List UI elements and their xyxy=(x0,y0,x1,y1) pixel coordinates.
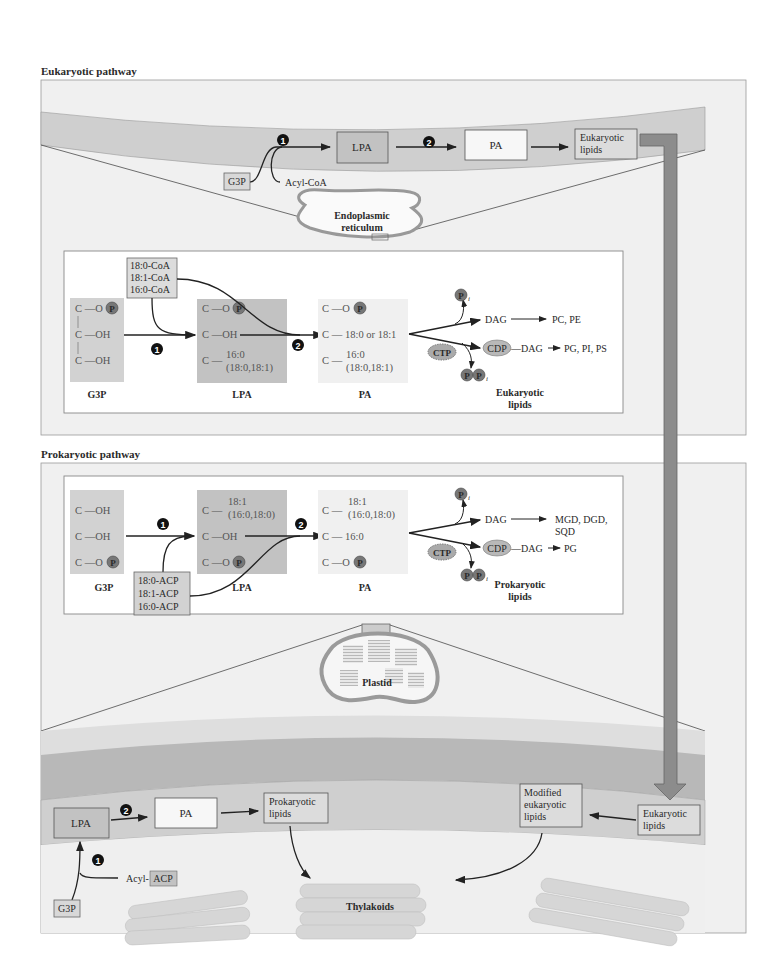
svg-text:C —O: C —O xyxy=(322,557,350,568)
svg-text:lipids: lipids xyxy=(269,808,291,819)
svg-text:PA: PA xyxy=(359,582,372,593)
svg-text:i: i xyxy=(468,295,470,303)
svg-text:lipids: lipids xyxy=(508,591,531,602)
svg-text:Plastid: Plastid xyxy=(362,677,392,688)
svg-text:eukaryotic: eukaryotic xyxy=(524,799,567,810)
svg-text:lipids: lipids xyxy=(508,399,531,410)
svg-text:2: 2 xyxy=(298,520,303,530)
svg-text:Prokaryotic: Prokaryotic xyxy=(269,796,316,807)
svg-text:18:1: 18:1 xyxy=(348,496,367,507)
svg-text:P: P xyxy=(357,304,363,314)
svg-text:(18:0,18:1): (18:0,18:1) xyxy=(346,362,393,374)
svg-text:DAG: DAG xyxy=(485,514,507,525)
svg-text:16:0: 16:0 xyxy=(346,349,365,360)
svg-text:PC, PE: PC, PE xyxy=(552,314,581,325)
svg-text:—DAG: —DAG xyxy=(510,543,543,554)
svg-text:P: P xyxy=(458,291,464,301)
svg-text:C —: C — xyxy=(202,505,223,516)
svg-text:PA: PA xyxy=(359,389,372,400)
svg-text:i: i xyxy=(486,575,488,583)
svg-text:1: 1 xyxy=(154,345,159,355)
svg-text:P: P xyxy=(458,490,464,500)
svg-text:LPA: LPA xyxy=(232,389,252,400)
svg-text:P: P xyxy=(464,571,470,581)
svg-text:C —O: C —O xyxy=(322,303,350,314)
svg-text:LPA: LPA xyxy=(352,141,372,153)
svg-text:—DAG: —DAG xyxy=(510,343,543,354)
svg-text:Acyl-CoA: Acyl-CoA xyxy=(285,177,327,188)
svg-text:reticulum: reticulum xyxy=(341,222,383,233)
svg-text:G3P: G3P xyxy=(228,176,246,187)
svg-text:C —: C — xyxy=(322,505,343,516)
svg-text:C —O: C —O xyxy=(75,557,103,568)
svg-text:C —: C — xyxy=(322,355,343,366)
svg-text:Prokaryotic: Prokaryotic xyxy=(495,579,546,590)
svg-text:PG, PI, PS: PG, PI, PS xyxy=(564,343,607,354)
svg-text:C —OH: C —OH xyxy=(75,531,111,542)
svg-text:18:1-CoA: 18:1-CoA xyxy=(130,272,171,283)
svg-text:C —: C — xyxy=(322,329,343,340)
svg-text:lipids: lipids xyxy=(524,811,546,822)
svg-text:C —OH: C —OH xyxy=(202,329,238,340)
svg-text:CTP: CTP xyxy=(433,348,452,358)
svg-text:16:0-CoA: 16:0-CoA xyxy=(130,284,171,295)
svg-text:P: P xyxy=(464,371,470,381)
svg-text:G3P: G3P xyxy=(88,389,107,400)
svg-text:Thylakoids: Thylakoids xyxy=(346,901,394,912)
svg-text:Endoplasmic: Endoplasmic xyxy=(334,210,390,221)
svg-text:Eukaryotic: Eukaryotic xyxy=(643,808,687,819)
svg-text:lipids: lipids xyxy=(580,144,602,155)
svg-text:C —OH: C —OH xyxy=(75,505,111,516)
svg-text:PA: PA xyxy=(179,807,192,819)
svg-text:2: 2 xyxy=(426,138,431,148)
svg-text:LPA: LPA xyxy=(71,817,91,829)
prokaryotic-pathway-title: Prokaryotic pathway xyxy=(41,448,141,460)
svg-text:Modified: Modified xyxy=(524,787,561,798)
svg-text:Eukaryotic: Eukaryotic xyxy=(496,387,544,398)
svg-text:C —O: C —O xyxy=(75,303,103,314)
svg-text:(18:0,18:1): (18:0,18:1) xyxy=(226,362,273,374)
svg-text:ACP: ACP xyxy=(153,873,173,884)
svg-text:i: i xyxy=(468,494,470,502)
svg-text:P: P xyxy=(110,558,116,568)
svg-text:PA: PA xyxy=(489,139,502,151)
svg-text:2: 2 xyxy=(123,806,128,816)
svg-text:P: P xyxy=(476,371,482,381)
svg-text:G3P: G3P xyxy=(58,903,76,914)
svg-text:18:0 or 18:1: 18:0 or 18:1 xyxy=(345,329,396,340)
svg-text:2: 2 xyxy=(295,341,300,351)
eukaryotic-pathway-title: Eukaryotic pathway xyxy=(41,65,137,77)
svg-text:MGD, DGD,: MGD, DGD, xyxy=(555,514,608,525)
svg-text:1: 1 xyxy=(95,856,100,866)
svg-text:P: P xyxy=(236,558,242,568)
svg-text:C —: C — xyxy=(322,531,343,542)
svg-text:C —OH: C —OH xyxy=(75,329,111,340)
svg-text:18:1-ACP: 18:1-ACP xyxy=(138,588,179,599)
svg-text:P: P xyxy=(109,304,115,314)
svg-text:C —: C — xyxy=(202,355,223,366)
svg-text:16:0: 16:0 xyxy=(345,531,364,542)
svg-text:(16:0,18:0): (16:0,18:0) xyxy=(348,509,395,521)
lipid-pathway-diagram: Eukaryotic pathway 1 G3P Acyl-CoA LPA 2 … xyxy=(0,0,757,966)
svg-text:C —O: C —O xyxy=(202,557,230,568)
svg-text:CDP: CDP xyxy=(487,543,507,554)
svg-text:Acyl-: Acyl- xyxy=(126,873,149,884)
svg-text:(16:0,18:0): (16:0,18:0) xyxy=(228,509,275,521)
svg-text:CTP: CTP xyxy=(433,548,452,558)
svg-text:i: i xyxy=(486,375,488,383)
svg-text:CDP: CDP xyxy=(487,343,507,354)
svg-text:1: 1 xyxy=(160,520,165,530)
svg-text:lipids: lipids xyxy=(643,820,665,831)
svg-text:16:0-ACP: 16:0-ACP xyxy=(138,601,179,612)
svg-text:G3P: G3P xyxy=(95,582,114,593)
svg-text:PG: PG xyxy=(564,543,577,554)
svg-text:C —O: C —O xyxy=(202,303,230,314)
svg-text:LPA: LPA xyxy=(232,582,252,593)
svg-text:P: P xyxy=(357,558,363,568)
svg-text:C —OH: C —OH xyxy=(75,355,111,366)
svg-text:DAG: DAG xyxy=(485,314,507,325)
svg-text:16:0: 16:0 xyxy=(226,349,245,360)
svg-text:18:0-CoA: 18:0-CoA xyxy=(130,260,171,271)
svg-text:18:1: 18:1 xyxy=(228,496,247,507)
svg-text:Eukaryotic: Eukaryotic xyxy=(580,132,624,143)
